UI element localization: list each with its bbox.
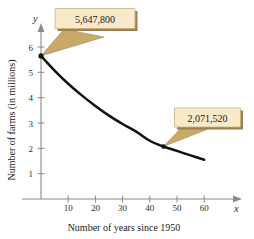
x-tick-label-40: 40	[145, 203, 155, 213]
callout-bottom: 2,071,520	[163, 108, 243, 147]
callout-bottom-value: 2,071,520	[188, 113, 228, 124]
x-axis-variable-label: x	[233, 203, 239, 214]
x-tick-label-10: 10	[64, 203, 74, 213]
callout-top-tail	[41, 29, 104, 56]
x-tick-label-50: 50	[173, 203, 183, 213]
y-tick-labels: 6 5 4 3 2 1	[29, 43, 34, 180]
y-tick-label-4: 4	[29, 93, 34, 103]
y-tick-label-3: 3	[29, 119, 34, 129]
x-tick-labels: 10 20 30 40 50 60	[64, 203, 210, 213]
y-axis-title: Number of farms (in millions)	[6, 59, 18, 180]
x-axis-title: Number of years since 1950	[68, 222, 181, 233]
callout-top: 5,647,800	[41, 9, 138, 56]
x-tick-label-30: 30	[118, 203, 128, 213]
x-tick-label-20: 20	[91, 203, 101, 213]
callout-bottom-tail	[163, 127, 207, 147]
y-tick-label-1: 1	[29, 169, 34, 179]
x-tick-label-60: 60	[200, 203, 210, 213]
callout-top-value: 5,647,800	[75, 14, 115, 25]
data-point-marker-start	[38, 53, 43, 58]
y-tick-label-6: 6	[29, 43, 34, 53]
y-axis-arrow-icon	[38, 23, 45, 32]
chart-figure: 6 5 4 3 2 1 10 20 30 40 50 60 y x Number…	[0, 0, 254, 239]
y-tick-label-5: 5	[29, 68, 34, 78]
y-axis-variable-label: y	[32, 13, 38, 24]
x-axis-arrow-icon	[233, 196, 242, 203]
farms-decay-chart: 6 5 4 3 2 1 10 20 30 40 50 60 y x Number…	[0, 0, 254, 239]
data-point-marker-annotated	[161, 144, 165, 148]
y-tick-label-2: 2	[29, 144, 34, 154]
